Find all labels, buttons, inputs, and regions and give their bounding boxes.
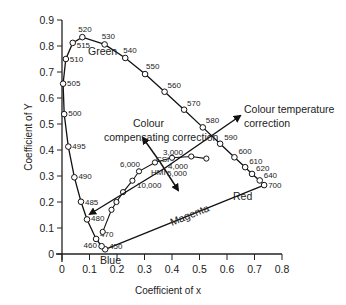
hmi-label: HMI — [151, 168, 166, 177]
wavelength-label: 485 — [85, 198, 99, 207]
y-tick-label: 0.3 — [39, 170, 54, 182]
locus-point — [78, 199, 84, 205]
locus-point — [72, 175, 78, 181]
x-tick-label: 0.6 — [220, 263, 235, 275]
wavelength-label: 700 — [268, 181, 282, 190]
blackbody-point — [136, 169, 141, 174]
wavelength-label: 560 — [168, 81, 182, 90]
wavelength-label: 540 — [123, 46, 137, 55]
x-tick-label: 0.5 — [192, 263, 207, 275]
locus-point — [242, 164, 248, 170]
wavelength-label: 495 — [72, 142, 86, 151]
wavelength-label: 600 — [238, 147, 252, 156]
locus-point — [70, 40, 76, 46]
wavelength-label: 490 — [78, 172, 92, 181]
chromaticity-chart: 00.10.20.30.40.50.60.70.80.900.10.20.30.… — [0, 0, 346, 305]
wavelength-label: 460 — [84, 241, 98, 250]
y-axis-title: Coefficient of Y — [23, 103, 34, 171]
k10000-label: 10,000 — [137, 181, 162, 190]
wavelength-label: 510 — [70, 55, 84, 64]
locus-point — [232, 154, 238, 160]
x-axis-title: Coefficient of x — [135, 285, 201, 296]
y-tick-label: 0.6 — [39, 92, 54, 104]
locus-point — [261, 182, 267, 188]
locus-point — [61, 111, 67, 117]
blackbody-point — [204, 156, 209, 161]
x-tick-label: 0 — [59, 263, 65, 275]
wavelength-label: 480 — [91, 214, 105, 223]
blackbody-point — [114, 199, 119, 204]
k6000-label: 6,000 — [120, 160, 141, 169]
locus-point — [122, 55, 128, 61]
magenta-label: Magenta — [168, 201, 211, 227]
locus-point — [249, 171, 255, 177]
blackbody-point — [130, 178, 135, 183]
locus-point — [142, 71, 148, 77]
y-tick-label: 0.4 — [39, 144, 54, 156]
wavelength-label: 590 — [224, 133, 238, 142]
wavelength-label: 500 — [68, 109, 82, 118]
y-tick-label: 0.2 — [39, 196, 54, 208]
locus-point — [63, 56, 69, 62]
locus-point — [84, 217, 90, 223]
wavelength-label: 570 — [187, 99, 201, 108]
locus-point — [66, 144, 72, 150]
locus-point — [257, 178, 263, 184]
locus-point — [60, 81, 66, 87]
blackbody-point — [100, 229, 105, 234]
locus-point — [99, 243, 105, 249]
locus-point — [93, 236, 99, 242]
x-tick-label: 0.3 — [137, 263, 152, 275]
x-tick-label: 0.4 — [165, 263, 180, 275]
green-label: Green — [88, 45, 117, 57]
wavelength-label: 580 — [206, 116, 220, 125]
wavelength-label: 450 — [109, 242, 123, 251]
colour-comp-label-1: Colour — [133, 117, 164, 129]
y-tick-label: 0.8 — [39, 40, 54, 52]
wavelength-label: 520 — [78, 25, 92, 34]
y-tick-label: 0 — [48, 248, 54, 260]
blackbody-locus — [100, 154, 209, 235]
colour-temp-label-2: correction — [244, 117, 290, 129]
k5000-label: 5,000 — [167, 169, 188, 178]
wavelength-label: 530 — [102, 32, 116, 41]
locus-point — [80, 34, 86, 40]
blackbody-point — [109, 207, 114, 212]
x-tick-label: 0.8 — [275, 263, 290, 275]
blackbody-point — [189, 154, 194, 159]
locus-point — [181, 107, 187, 113]
y-tick-label: 0.7 — [39, 66, 54, 78]
locus-point — [162, 89, 168, 95]
colour-comp-label-2: compensating correction — [104, 131, 219, 143]
k3000-label: 3,000 — [163, 148, 184, 157]
wavelength-label: 640 — [264, 171, 278, 180]
x-tick-label: 0.7 — [247, 263, 262, 275]
y-tick-label: 0.9 — [39, 14, 54, 26]
colour-temp-label-1: Colour temperature — [244, 103, 335, 115]
x-tick-label: 0.1 — [82, 263, 97, 275]
y-tick-label: 0.1 — [39, 222, 54, 234]
y-tick-label: 0.5 — [39, 118, 54, 130]
locus-point — [200, 125, 206, 131]
blue-label: Blue — [100, 254, 121, 266]
wavelength-label: 505 — [67, 79, 81, 88]
red-label: Red — [233, 190, 252, 202]
wavelength-label: 550 — [146, 62, 160, 71]
